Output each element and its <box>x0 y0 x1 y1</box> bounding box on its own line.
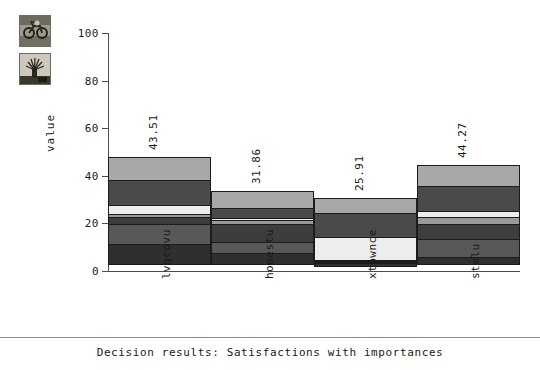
footer-caption: Decision results: Satisfactions with imp… <box>0 346 540 359</box>
bar-value-label: 44.27 <box>456 122 469 158</box>
tree-icon <box>20 54 50 84</box>
y-axis-title: value <box>44 114 57 152</box>
bar-column[interactable]: 25.91xtownce <box>314 198 417 271</box>
x-axis-category-label: homestu <box>263 229 276 279</box>
motorcycle-icon <box>20 16 50 46</box>
x-axis-category-label: stalu <box>469 243 482 279</box>
y-axis-tick-label: 40 <box>85 169 99 182</box>
bar-segment[interactable] <box>211 191 314 209</box>
motorcycle-photo-thumbnail[interactable] <box>19 15 51 47</box>
bar-segment[interactable] <box>417 186 520 212</box>
bar-segment[interactable] <box>417 224 520 239</box>
y-axis-tick-label: 80 <box>85 74 99 87</box>
footer-divider <box>0 337 540 338</box>
y-axis-tick-mark <box>102 33 108 34</box>
bar-segment[interactable] <box>417 165 520 186</box>
y-axis-tick-label: 0 <box>92 265 99 278</box>
bar-segment[interactable] <box>314 198 417 213</box>
bar-value-label: 43.51 <box>147 114 160 150</box>
y-axis-tick-label: 60 <box>85 122 99 135</box>
bar-segment[interactable] <box>108 180 211 206</box>
y-axis-tick-label: 100 <box>78 27 99 40</box>
bar-value-label: 25.91 <box>353 156 366 192</box>
x-axis-category-label: lvgcovu <box>160 229 173 279</box>
bar-segment[interactable] <box>108 157 211 181</box>
bar-column[interactable]: 44.27stalu <box>417 165 520 271</box>
y-axis-tick-mark <box>102 271 108 272</box>
x-axis-category-label: xtownce <box>366 229 379 279</box>
y-axis-tick-mark <box>102 128 108 129</box>
bar-column[interactable]: 43.51lvgcovu <box>108 157 211 271</box>
thumbnail-strip <box>19 15 53 91</box>
plot-area: 020406080100 43.51lvgcovu31.86homestu25.… <box>108 33 520 271</box>
tree-photo-thumbnail[interactable] <box>19 53 51 85</box>
y-axis-tick-label: 20 <box>85 217 99 230</box>
bar-column[interactable]: 31.86homestu <box>211 191 314 271</box>
bar-value-label: 31.86 <box>250 149 263 185</box>
y-axis-tick-mark <box>102 81 108 82</box>
